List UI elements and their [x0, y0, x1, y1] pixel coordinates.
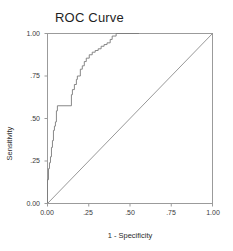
- y-tick-label-0: 0.00: [18, 200, 40, 207]
- roc-curve-line: [48, 34, 139, 204]
- x-tick-label-075: .75: [158, 209, 184, 216]
- x-tick-label-0: 0.00: [34, 209, 60, 216]
- reference-diagonal-line: [48, 34, 213, 204]
- y-axis-title: Sensitivity: [5, 109, 14, 179]
- x-tick-label-05: .50: [117, 209, 143, 216]
- x-tick-label-1: 1.00: [200, 209, 226, 216]
- x-tick-label-025: .25: [75, 209, 101, 216]
- y-tick-label-1: 1.00: [18, 30, 40, 37]
- roc-curve-figure: ROC Curve 1.00 .75 .50 .25 0.00 0.00 .25…: [0, 0, 233, 251]
- x-axis-title: 1 - Specificity: [47, 231, 213, 240]
- y-tick-label-075: .75: [18, 72, 40, 79]
- y-tick-label-05: .50: [18, 115, 40, 122]
- y-tick-label-025: .25: [18, 157, 40, 164]
